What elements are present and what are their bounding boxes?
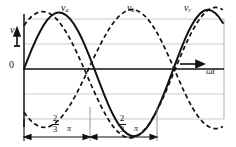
origin-label: 0: [9, 60, 14, 70]
dim-arrow-1-left: [24, 135, 31, 140]
curve-label-vb: vb: [127, 3, 134, 13]
span-label-1-unit: π: [67, 125, 71, 133]
span-label-2-unit: π: [134, 125, 138, 133]
dim-arrow-2-left: [90, 135, 97, 140]
dim-arrow-2-right: [150, 135, 157, 140]
curve-label-vb-sub: b: [131, 7, 134, 13]
span-label-1-numerator: 2: [48, 114, 62, 123]
curve-label-vc-sub: c: [188, 7, 191, 13]
v-axis-arrow-icon: [14, 28, 20, 46]
span-label-2-denominator: 3: [115, 125, 129, 134]
span-label-2: 2 3 π: [115, 114, 129, 134]
x-axis-label: ωt: [206, 67, 215, 76]
wt-arrow-icon: [180, 61, 204, 68]
curve-label-vc: vc: [184, 3, 191, 13]
span-label-2-numerator: 2: [115, 114, 129, 123]
curve-label-va-sub: a: [65, 7, 68, 13]
span-label-1-denominator: 3: [48, 125, 62, 134]
three-phase-waveform-figure: v 0 ωt va vb vc 2 3 π 2 3 π: [0, 0, 236, 147]
y-axis-label: v: [10, 25, 14, 35]
curve-label-va: va: [61, 3, 68, 13]
span-label-1: 2 3 π: [48, 114, 62, 134]
